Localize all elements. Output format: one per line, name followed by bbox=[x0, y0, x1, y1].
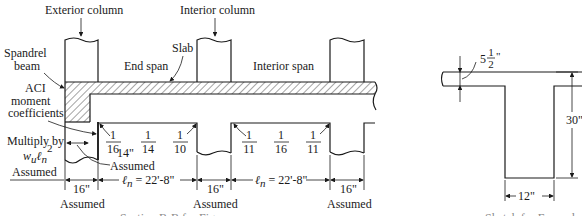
end-span-label: End span bbox=[124, 59, 168, 73]
dim-14-label: 14" bbox=[117, 146, 134, 160]
dim-14-assumed: Assumed bbox=[110, 159, 155, 173]
web-width-label: 12" bbox=[518, 189, 535, 203]
svg-text:1: 1 bbox=[177, 128, 183, 142]
left-caption: Section B-B for Figure ... bbox=[120, 211, 242, 216]
aci-arrow bbox=[48, 121, 96, 134]
col3-width: 16" bbox=[340, 182, 357, 196]
col2-assumed: Assumed bbox=[193, 197, 238, 211]
slab-label: Slab bbox=[172, 41, 193, 55]
col1-assumed: Assumed bbox=[60, 197, 105, 211]
multiply-label: Multiply by bbox=[7, 134, 64, 148]
multiply-exp: 2 bbox=[47, 142, 53, 154]
assumed-left-label: Assumed bbox=[12, 165, 57, 179]
interior-column-1-top bbox=[197, 38, 231, 82]
interior-span-coefficients: 1 11 1 16 1 11 bbox=[234, 124, 329, 156]
svg-text:10: 10 bbox=[174, 142, 186, 156]
depth-label: 30" bbox=[566, 113, 582, 127]
right-caption: Sketch for Example bbox=[485, 211, 580, 216]
flange-break-line bbox=[442, 72, 444, 86]
slab-thickness-whole: 5 bbox=[480, 52, 486, 66]
dimension-row: 16" Assumed ℓn = 22'-8" 16" Assumed ℓn =… bbox=[10, 155, 372, 211]
svg-text:16: 16 bbox=[107, 142, 119, 156]
svg-text:1: 1 bbox=[278, 128, 284, 142]
svg-text:14: 14 bbox=[142, 142, 154, 156]
interior-column-1-bottom bbox=[197, 151, 231, 155]
svg-text:1: 1 bbox=[246, 128, 252, 142]
exterior-column-bottom bbox=[65, 157, 98, 163]
aci-label-3: coefficients bbox=[8, 106, 64, 120]
svg-text:": " bbox=[496, 50, 501, 62]
spandrel-label-2: beam bbox=[14, 59, 41, 73]
spandrel-label-1: Spandrel bbox=[4, 46, 47, 60]
slab-arrow bbox=[170, 56, 183, 81]
end-span-coefficients: 1 16 1 14 1 10 bbox=[100, 124, 196, 156]
svg-text:11: 11 bbox=[307, 142, 319, 156]
continuous-beam-elevation: Exterior column Interior column bbox=[4, 3, 377, 216]
exterior-column-top bbox=[65, 38, 98, 82]
span1-length: ℓn = 22'-8" bbox=[122, 173, 174, 189]
col1-width: 16" bbox=[73, 182, 90, 196]
beam-section-diagram: Exterior column Interior column bbox=[0, 0, 582, 216]
interior-column-label: Interior column bbox=[180, 3, 255, 17]
col2-width: 16" bbox=[207, 182, 224, 196]
svg-text:2: 2 bbox=[488, 58, 494, 70]
multiply-wu: wuℓn bbox=[23, 149, 48, 165]
svg-text:1: 1 bbox=[488, 46, 494, 58]
interior-column-2-bottom bbox=[330, 151, 364, 155]
svg-text:11: 11 bbox=[243, 142, 255, 156]
svg-text:1: 1 bbox=[110, 128, 116, 142]
interior-span-label: Interior span bbox=[253, 59, 314, 73]
spandrel-arrow bbox=[44, 73, 64, 88]
span2-length: ℓn = 22'-8" bbox=[255, 173, 307, 189]
col3-assumed: Assumed bbox=[327, 197, 372, 211]
svg-text:16: 16 bbox=[275, 142, 287, 156]
t-beam-cross-section: 5 1 2 " 30" 12" Sketch for Example bbox=[442, 46, 582, 216]
t-beam-outline bbox=[443, 86, 582, 178]
svg-text:1: 1 bbox=[145, 128, 151, 142]
exterior-column-label: Exterior column bbox=[45, 3, 123, 17]
aci-label-1: ACI bbox=[25, 81, 46, 95]
slab-hatch bbox=[65, 82, 377, 122]
svg-text:1: 1 bbox=[310, 128, 316, 142]
interior-column-2-top bbox=[330, 38, 364, 82]
